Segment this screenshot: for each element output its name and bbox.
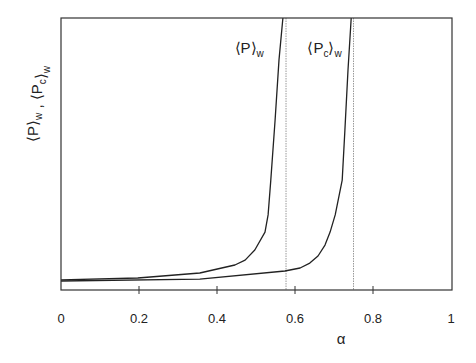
x-tick-label: 0.2 [130, 311, 148, 326]
curve-label-1: ⟨Pc⟩w [307, 39, 342, 59]
y-axis-label: ⟨P⟩w , ⟨Pc⟩w [24, 65, 52, 142]
x-tick-label: 0.8 [364, 311, 382, 326]
x-axis-label: α [337, 330, 346, 347]
x-tick-label: 1 [447, 311, 454, 326]
x-tick-label: 0 [57, 311, 64, 326]
chart: 00.20.40.60.81 ⟨P⟩w⟨Pc⟩w α ⟨P⟩w , ⟨Pc⟩w [0, 0, 476, 363]
x-tick-label: 0.6 [286, 311, 304, 326]
x-tick-label: 0.4 [208, 311, 226, 326]
curve-label-0: ⟨P⟩w [235, 39, 265, 59]
x-tick-labels: 00.20.40.60.81 [57, 311, 454, 326]
series-line-0 [61, 18, 283, 280]
series-line-1 [61, 18, 351, 281]
curves [61, 18, 351, 281]
curve-labels: ⟨P⟩w⟨Pc⟩w [235, 39, 343, 59]
